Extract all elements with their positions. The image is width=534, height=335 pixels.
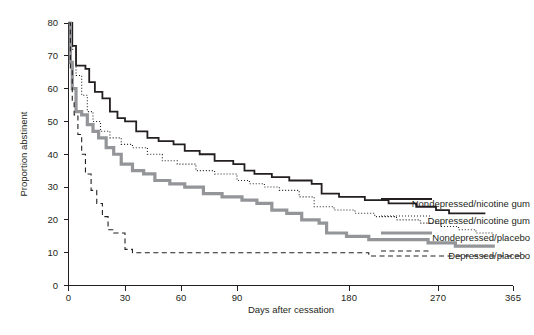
y-tick-label-50: 50 [47,116,58,127]
x-tick-label-90: 90 [232,292,243,303]
y-tick-label-80: 80 [47,17,58,28]
x-tick-label-365: 365 [505,292,521,303]
y-tick-label-10: 10 [47,247,58,258]
x-tick-label-60: 60 [176,292,187,303]
y-tick-label-30: 30 [47,181,58,192]
y-tick-label-70: 70 [47,50,58,61]
y-axis-title: Proportion abstinent [18,111,29,196]
y-tick-label-60: 60 [47,83,58,94]
series-label-3: Nondepressed/placebo [432,232,530,243]
x-tick-label-270: 270 [430,292,446,303]
chart-background [0,0,534,335]
y-tick-label-20: 20 [47,214,58,225]
y-tick-label-40: 40 [47,149,58,160]
x-tick-label-0: 0 [66,292,71,303]
x-tick-label-180: 180 [341,292,357,303]
abstinence-survival-chart: 01020304050607080 0306090180270365 Propo… [0,0,534,335]
y-tick-label-0: 0 [53,280,58,291]
x-tick-label-30: 30 [120,292,131,303]
x-axis-title: Days after cessation [248,304,334,315]
series-label-4: Depressed/placebo [448,250,530,261]
series-label-1: Nondepressed/nicotine gum [412,198,530,209]
series-label-2: Depressed/nicotine gum [428,215,531,226]
chart-svg: 01020304050607080 0306090180270365 Propo… [0,0,534,335]
